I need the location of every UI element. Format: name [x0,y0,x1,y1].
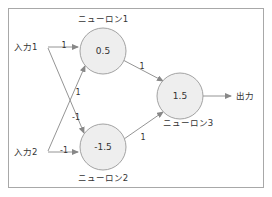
node-neuron3[interactable]: 1.5 [157,73,203,119]
neuron1-caption: ニューロン1 [78,14,128,24]
output-label: 出力 [236,91,254,101]
neuron2-value: -1.5 [94,142,112,152]
diagram-root: 0.5 ニューロン1 -1.5 ニューロン2 1.5 ニューロン3 入力1 入力… [0,0,272,197]
weight-input2-neuron2: -1 [60,146,68,155]
neuron2-caption: ニューロン2 [78,173,128,183]
neuron3-value: 1.5 [173,91,187,101]
neuron3-caption: ニューロン3 [163,118,213,128]
input1-label: 入力1 [14,42,37,52]
weight-input2-neuron1: 1 [75,88,80,97]
weight-input1-neuron2: -1 [72,113,80,122]
weight-neuron2-neuron3: 1 [140,133,145,142]
weight-input1-neuron1: 1 [61,41,66,50]
node-neuron2[interactable]: -1.5 [80,124,126,170]
node-neuron1[interactable]: 0.5 [80,28,126,74]
weight-neuron1-neuron3: 1 [139,62,144,71]
neuron1-value: 0.5 [96,46,110,56]
input2-label: 入力2 [14,147,37,157]
diagram-canvas: 0.5 ニューロン1 -1.5 ニューロン2 1.5 ニューロン3 入力1 入力… [0,0,272,197]
edge-input2-neuron1 [48,66,85,151]
